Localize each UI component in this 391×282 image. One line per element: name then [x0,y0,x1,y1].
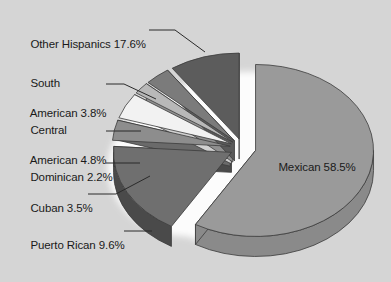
label-mexican: Mexican 58.5% [266,149,356,185]
label-puerto-rican-text: Puerto Rican 9.6% [30,239,124,251]
label-other-hispanics-text: Other Hispanics 17.6% [30,38,146,50]
label-cuban-text: Cuban 3.5% [30,202,92,214]
leader-line-other-hispanics [149,30,205,52]
label-mexican-text: Mexican 58.5% [278,161,355,173]
label-central-american-line1: Central [30,124,66,136]
label-south-american-line1: South [30,77,60,89]
label-dominican-text: Dominican 2.2% [30,171,112,183]
label-puerto-rican: Puerto Rican 9.6% [18,223,125,268]
pie-chart-figure: Other Hispanics 17.6% South American 3.8… [0,0,391,282]
leader-line-south-american [106,84,156,99]
